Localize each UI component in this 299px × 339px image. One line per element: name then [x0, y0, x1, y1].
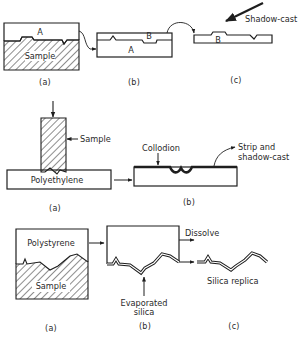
polystyrene-label: Polystyrene	[27, 238, 75, 248]
caption-2b: (b)	[183, 198, 195, 207]
caption-3b: (b)	[139, 322, 151, 331]
caption-1c: (c)	[230, 76, 242, 85]
dissolve-label: Dissolve	[185, 228, 219, 238]
layer-a-label: A	[37, 27, 43, 37]
row1-panel-a: A Sample (a)	[4, 23, 79, 87]
row1-panel-b: B A (b)	[97, 31, 172, 87]
row3-panel-c: Silica replica (c)	[197, 253, 267, 331]
shadow-cast-label: Shadow-cast	[245, 14, 298, 24]
row3-panel-a: Polystyrene Sample (a)	[16, 229, 88, 333]
caption-1a: (a)	[39, 78, 51, 87]
caption-1b: (b)	[128, 78, 140, 87]
row3-panel-b: Dissolve Evaporated silica (b)	[107, 226, 219, 331]
evaporated-label-2: silica	[134, 307, 155, 317]
row2-panel-b: Collodion Strip and shadow-cast (b)	[134, 142, 290, 207]
strip-label-1: Strip and	[238, 142, 275, 152]
layer-b-label: B	[146, 31, 152, 41]
polyethylene-label: Polyethylene	[31, 175, 84, 185]
layer-b-label-c: B	[215, 35, 221, 45]
transfer-arrow-2	[167, 22, 194, 33]
strip-label-2: shadow-cast	[238, 152, 290, 162]
sample-label-3: Sample	[36, 281, 67, 291]
row1-panel-c: B Shadow-cast (c)	[194, 3, 298, 85]
replica-technique-diagram: A Sample (a) B A (b) B Shadow-cast (c) S…	[0, 0, 299, 339]
collodion-label: Collodion	[142, 143, 180, 153]
sample-label-2: Sample	[80, 134, 111, 144]
transfer-arrow-1	[79, 31, 96, 49]
row2-panel-a: Sample Polyethylene (a)	[7, 101, 111, 213]
silica-replica-label: Silica replica	[207, 276, 259, 286]
caption-3a: (a)	[45, 324, 57, 333]
caption-3c: (c)	[228, 322, 240, 331]
layer-a-label-b: A	[128, 45, 134, 55]
sample-label: Sample	[25, 51, 56, 61]
caption-2a: (a)	[49, 204, 61, 213]
